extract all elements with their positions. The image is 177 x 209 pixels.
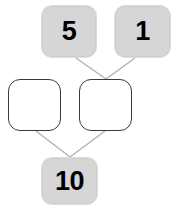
- node-addend-5-label: 5: [62, 18, 77, 45]
- node-total-10-label: 10: [55, 168, 84, 195]
- edge-blank-left-to-total10: [36, 131, 70, 157]
- number-bond-diagram: 5 1 10: [0, 0, 177, 209]
- edge-blank-right-to-total10: [70, 131, 105, 157]
- edge-addend1-to-blank-right: [106, 58, 135, 79]
- node-total-10[interactable]: 10: [41, 157, 98, 205]
- node-blank-left[interactable]: [8, 79, 61, 131]
- node-addend-1-label: 1: [135, 18, 150, 45]
- node-addend-5[interactable]: 5: [41, 5, 97, 58]
- node-addend-1[interactable]: 1: [114, 5, 171, 58]
- node-blank-right[interactable]: [79, 79, 132, 131]
- edge-addend5-to-blank-right: [76, 58, 106, 79]
